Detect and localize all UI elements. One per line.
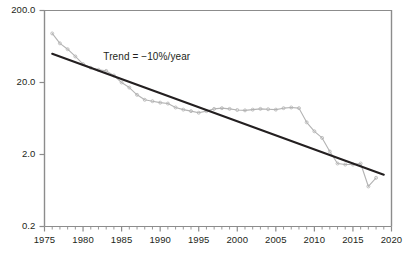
chart-container: 200.020.02.00.2 197519801985199019952000… — [0, 0, 410, 256]
x-axis-tick-label: 2020 — [368, 234, 410, 245]
y-axis-tick-label: 20.0 — [0, 76, 36, 87]
axis-frame — [45, 10, 392, 227]
y-axis-tick-label: 2.0 — [0, 148, 36, 159]
trend-line — [52, 54, 384, 175]
x-axis-major-ticks — [45, 227, 392, 232]
chart-plot-area — [0, 0, 410, 256]
trend-annotation-label: Trend = −10%/year — [103, 51, 190, 62]
data-series-line — [52, 33, 376, 186]
y-axis-tick-label: 200.0 — [0, 4, 36, 15]
y-axis-tick-label: 0.2 — [0, 220, 36, 231]
data-series-markers — [51, 32, 378, 188]
y-axis-ticks — [40, 11, 45, 227]
